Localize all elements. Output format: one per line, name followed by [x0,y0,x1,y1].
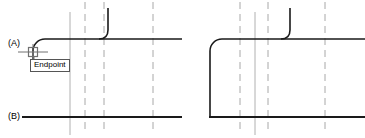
centerline-group-right [240,2,325,135]
fillet-arc-and-top-edge-left [33,39,182,51]
callout-label-b: (B) [8,112,20,121]
endpoint-snap-tooltip: Endpoint [30,59,70,72]
panel-after-geometry [209,8,365,117]
rounded-corner-profile-right [210,39,365,117]
hook-curve-left [99,8,108,39]
cad-figure: (A) (B) Endpoint [0,0,365,138]
callout-label-a: (A) [8,39,20,48]
hook-curve-right [281,8,290,39]
centerline-group-left [70,2,153,135]
